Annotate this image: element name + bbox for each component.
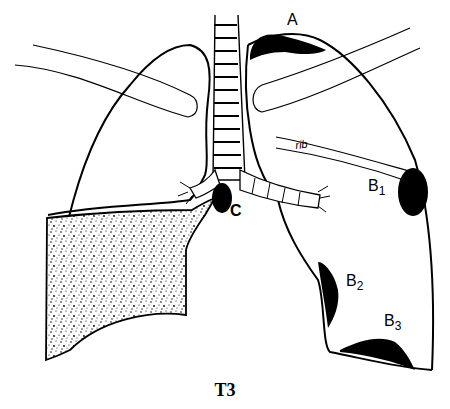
label-B3-sub: 3 (395, 319, 402, 333)
label-C: C (230, 203, 242, 219)
label-B1-base: B (368, 177, 379, 194)
label-B3-base: B (384, 312, 395, 329)
label-B3: B3 (384, 313, 401, 332)
label-B1: B1 (368, 178, 385, 197)
lung-t3-diagram: A rib B1 B2 B3 C T3 (0, 0, 450, 409)
tumor-B1 (398, 168, 428, 216)
lung-illustration (0, 0, 450, 409)
label-A: A (287, 12, 298, 28)
tumor-B3 (340, 339, 415, 370)
diagram-caption: T3 (0, 380, 450, 401)
tumor-C (212, 183, 232, 213)
label-B2-base: B (346, 272, 357, 289)
label-rib: rib (295, 138, 308, 151)
pleural-effusion (46, 198, 215, 360)
label-B1-sub: 1 (379, 184, 386, 198)
label-B2-sub: 2 (357, 279, 364, 293)
label-B2: B2 (346, 273, 363, 292)
